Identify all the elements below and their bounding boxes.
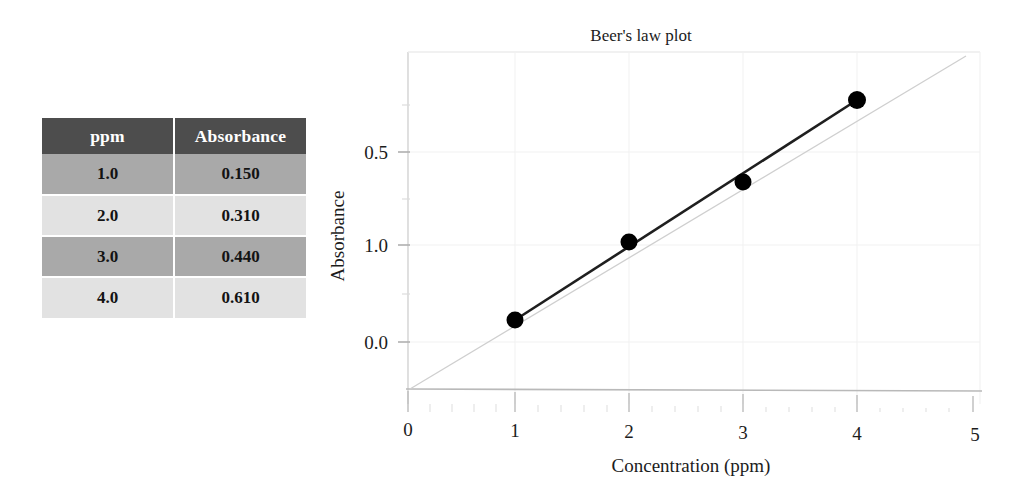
y-tick-label-1: 1.0 — [364, 235, 388, 256]
table-row: 3.0 0.440 — [42, 236, 306, 277]
trendline-extrapolation — [410, 56, 966, 389]
cell-ppm: 2.0 — [42, 195, 174, 236]
table-row: 4.0 0.610 — [42, 277, 306, 318]
trendline — [515, 100, 857, 320]
x-axis-line — [406, 389, 982, 391]
x-tick-label-0: 0 — [403, 419, 413, 440]
data-point — [848, 91, 866, 109]
x-axis-minor-ticks — [430, 404, 949, 412]
cell-absorbance: 0.440 — [174, 236, 306, 277]
column-header-absorbance: Absorbance — [174, 118, 306, 154]
chart-canvas: 0.5 1.0 0.0 — [318, 8, 1008, 498]
beers-law-chart: Beer's law plot — [318, 8, 1008, 498]
absorbance-data-table: ppm Absorbance 1.0 0.150 2.0 0.310 3.0 0… — [42, 118, 306, 318]
y-tick-label-2: 0.0 — [364, 332, 388, 353]
x-tick-label-3: 3 — [738, 422, 748, 443]
y-tick-label-0: 0.5 — [364, 142, 388, 163]
cell-ppm: 1.0 — [42, 154, 174, 195]
y-axis-title: Absorbance — [327, 191, 348, 282]
gridlines — [408, 52, 980, 404]
cell-absorbance: 0.150 — [174, 154, 306, 195]
x-tick-label-4: 4 — [852, 423, 862, 444]
plot-frame — [408, 52, 980, 404]
x-axis-title: Concentration (ppm) — [612, 455, 771, 477]
data-point — [507, 312, 524, 329]
x-tick-label-5: 5 — [970, 424, 980, 445]
cell-ppm: 3.0 — [42, 236, 174, 277]
cell-ppm: 4.0 — [42, 277, 174, 318]
data-point — [735, 174, 752, 191]
table-row: 2.0 0.310 — [42, 195, 306, 236]
table-header-row: ppm Absorbance — [42, 118, 306, 154]
x-tick-label-2: 2 — [624, 421, 634, 442]
table-header: ppm Absorbance — [42, 118, 306, 154]
table-row: 1.0 0.150 — [42, 154, 306, 195]
column-header-ppm: ppm — [42, 118, 174, 154]
table-body: 1.0 0.150 2.0 0.310 3.0 0.440 4.0 0.610 — [42, 154, 306, 318]
data-point — [621, 234, 638, 251]
x-tick-label-1: 1 — [510, 420, 520, 441]
cell-absorbance: 0.310 — [174, 195, 306, 236]
cell-absorbance: 0.610 — [174, 277, 306, 318]
x-axis-major-ticks — [408, 391, 973, 412]
